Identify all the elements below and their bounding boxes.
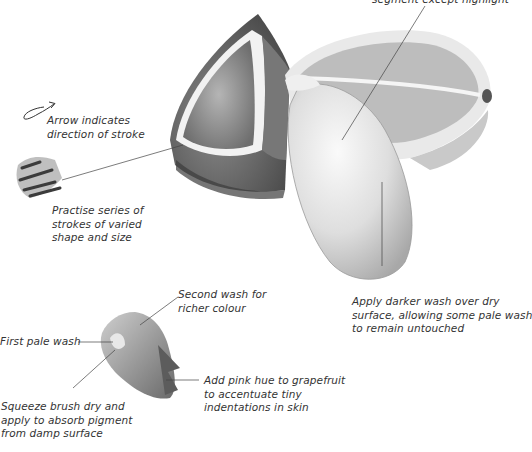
- grapefruit-wedge: [170, 14, 290, 199]
- annotation-second-wash: Second wash for richer colour: [178, 288, 266, 315]
- annotation-darker-wash: Apply darker wash over dry surface, allo…: [352, 295, 532, 336]
- annotation-top-right: segment except highlight: [372, 0, 509, 7]
- annotation-first-wash: First pale wash: [0, 335, 81, 349]
- annotation-practise: Practise series of strokes of varied sha…: [52, 204, 144, 245]
- practise-strokes-swatch: [17, 157, 63, 198]
- annotation-pink-hue: Add pink hue to grapefruit to accentuate…: [204, 374, 345, 415]
- annotation-squeeze: Squeeze brush dry and apply to absorb pi…: [1, 400, 132, 441]
- annotation-arrow: Arrow indicates direction of stroke: [47, 114, 145, 141]
